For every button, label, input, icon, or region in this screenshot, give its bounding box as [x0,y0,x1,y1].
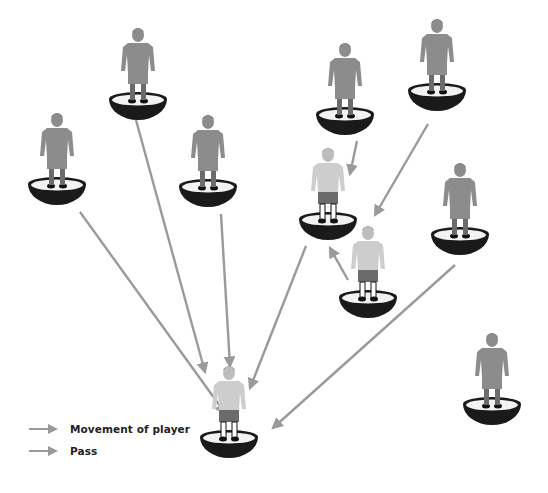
player-figure-p10 [463,333,521,425]
pass-arrow [250,246,306,388]
legend-label-pass: Pass [70,445,97,457]
player-figure-p8 [339,226,397,318]
player-figure-p2 [109,28,167,120]
player-figure-p9 [200,366,258,458]
player-figure-p6 [299,148,357,240]
movement-arrow [375,124,428,215]
movement-arrow [330,248,348,280]
player-figure-p7 [431,163,489,255]
pass-arrow [221,214,230,366]
pass-arrow [80,212,225,413]
movement-arrow-icon [28,423,60,435]
movement-arrow [350,141,357,174]
legend-item-pass: Pass [28,440,190,462]
player-figure-p5 [408,19,466,111]
players-layer [28,19,521,458]
arrows-layer [80,120,455,428]
player-figure-p1 [28,113,86,205]
legend: Movement of player Pass [28,418,190,462]
player-figure-p3 [179,115,237,207]
legend-item-movement: Movement of player [28,418,190,440]
pass-arrow-icon [28,445,60,457]
player-figure-p4 [316,43,374,135]
legend-label-movement: Movement of player [70,423,190,435]
